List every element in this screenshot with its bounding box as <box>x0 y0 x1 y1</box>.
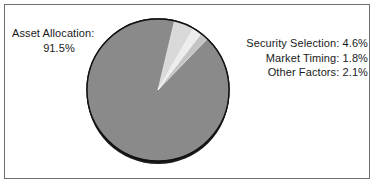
slice-labels-right: Security Selection: 4.6% Market Timing: … <box>246 36 368 80</box>
asset-allocation-label-line1: Asset Allocation: <box>10 26 108 41</box>
pie-chart-figure: Asset Allocation: 91.5% Security Selecti… <box>0 0 376 185</box>
market-timing-label: Market Timing: 1.8% <box>246 51 368 66</box>
security-selection-label: Security Selection: 4.6% <box>246 36 368 51</box>
asset-allocation-label-line2: 91.5% <box>10 41 108 56</box>
asset-allocation-label: Asset Allocation: 91.5% <box>10 26 108 55</box>
other-factors-label: Other Factors: 2.1% <box>246 65 368 80</box>
